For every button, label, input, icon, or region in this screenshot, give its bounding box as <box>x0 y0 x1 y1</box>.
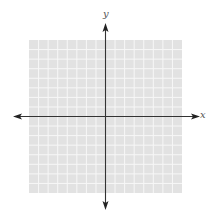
coordinate-grid <box>0 0 215 215</box>
x-axis-label: x <box>200 110 206 120</box>
y-axis-label: y <box>103 9 109 19</box>
